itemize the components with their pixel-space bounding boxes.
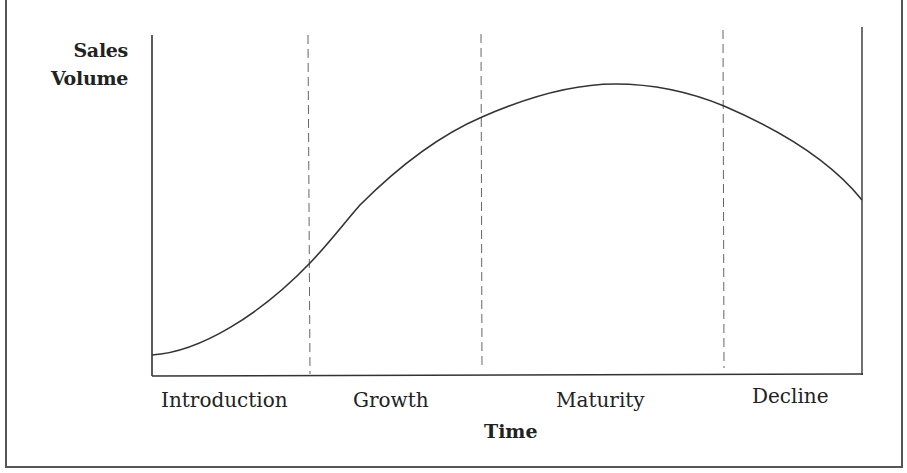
- y-axis-label: Sales Volume: [20, 36, 128, 92]
- x-axis: [152, 374, 863, 376]
- divider-growth-maturity: [481, 34, 482, 370]
- phase-label-decline: Decline: [752, 384, 829, 408]
- divider-maturity-decline: [723, 30, 724, 368]
- phase-label-growth: Growth: [353, 388, 429, 412]
- phase-dividers: [308, 30, 724, 374]
- phase-label-maturity: Maturity: [556, 388, 645, 412]
- y-axis-label-line2: Volume: [20, 64, 128, 92]
- y-axis-label-line1: Sales: [20, 36, 128, 64]
- sales-curve: [152, 84, 862, 355]
- divider-intro-growth: [308, 35, 310, 374]
- x-axis-label: Time: [484, 420, 538, 442]
- phase-label-introduction: Introduction: [161, 388, 288, 412]
